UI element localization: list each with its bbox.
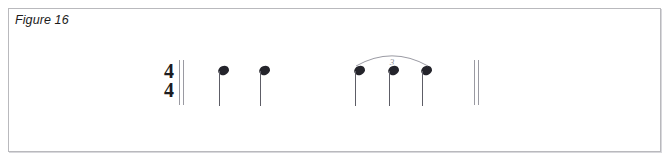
time-signature-denominator: 4 [160, 81, 178, 100]
note-stem [355, 71, 356, 106]
note-stem [389, 71, 390, 106]
note-stem [219, 71, 220, 106]
triplet-number: 3 [387, 58, 397, 67]
barline-line [474, 60, 475, 105]
barline-line [478, 60, 479, 105]
barline-line [179, 60, 180, 105]
note-stem [422, 71, 423, 106]
music-notation-staff: 4 4 3 [9, 9, 662, 153]
figure-container: Figure 16 4 4 3 [8, 8, 661, 152]
note-stem [260, 71, 261, 106]
barline-line [183, 60, 184, 105]
time-signature: 4 4 [160, 62, 178, 100]
